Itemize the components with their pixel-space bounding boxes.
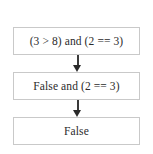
flow-node-step-3: False (13, 117, 140, 145)
arrow-down-icon (72, 55, 83, 73)
flow-diagram: (3 > 8) and (2 == 3) False and (2 == 3) … (0, 0, 153, 154)
arrow-head (73, 110, 81, 117)
flow-node-label: False (64, 125, 89, 137)
arrow-down-icon (72, 100, 83, 118)
flow-node-step-1: (3 > 8) and (2 == 3) (13, 27, 140, 55)
flow-node-label: False and (2 == 3) (33, 80, 119, 92)
flow-node-label: (3 > 8) and (2 == 3) (30, 35, 124, 47)
flow-node-step-2: False and (2 == 3) (13, 72, 140, 100)
arrow-head (73, 65, 81, 72)
